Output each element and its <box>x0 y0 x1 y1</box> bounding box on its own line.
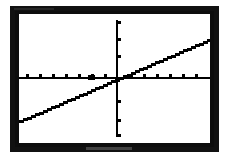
x-tick <box>156 74 159 77</box>
screenshot-root <box>0 0 229 164</box>
y-tick <box>118 119 121 122</box>
line-axis-crossing-marker <box>88 75 95 80</box>
scan-artifact-top <box>14 8 54 10</box>
scan-artifact-bottom <box>86 147 132 150</box>
x-tick <box>195 74 198 77</box>
y-tick <box>118 55 121 58</box>
y-tick <box>118 21 121 24</box>
x-tick <box>52 74 55 77</box>
x-axis-line <box>19 77 210 79</box>
x-tick <box>169 74 172 77</box>
x-tick <box>26 74 29 77</box>
x-tick <box>39 74 42 77</box>
y-axis-line <box>116 20 118 137</box>
plot-area[interactable] <box>19 14 210 143</box>
y-tick <box>118 38 121 41</box>
x-tick <box>78 74 81 77</box>
graph-canvas <box>19 14 210 143</box>
line-pixel <box>207 39 210 42</box>
y-tick <box>118 134 121 137</box>
y-tick <box>118 100 121 103</box>
x-tick <box>65 74 68 77</box>
x-tick <box>182 74 185 77</box>
x-tick <box>143 74 146 77</box>
x-tick <box>104 74 107 77</box>
